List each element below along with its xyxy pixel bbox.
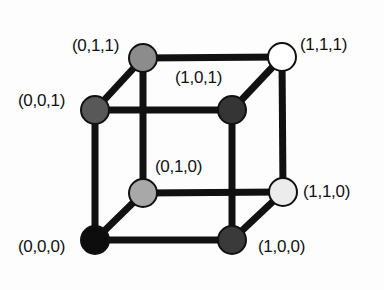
vertex-label-v011: (0,1,1) bbox=[72, 37, 119, 54]
cube-vertex-v001 bbox=[81, 96, 109, 124]
vertex-label-v000: (0,0,0) bbox=[18, 238, 65, 255]
vertex-label-v111: (1,1,1) bbox=[300, 36, 347, 53]
cube-vertex-v101 bbox=[218, 96, 246, 124]
vertex-label-v101: (1,0,1) bbox=[175, 69, 222, 86]
cube-vertex-v010 bbox=[129, 179, 157, 207]
vertex-label-v110: (1,1,0) bbox=[303, 183, 350, 200]
vertex-label-v100: (1,0,0) bbox=[258, 238, 305, 255]
cube-edge bbox=[143, 57, 282, 58]
vertex-label-v001: (0,0,1) bbox=[18, 92, 65, 109]
cube-vertex-v110 bbox=[269, 178, 297, 206]
color-cube-figure: (0,1,1)(1,1,1)(0,0,1)(1,0,1)(0,1,0)(1,1,… bbox=[0, 0, 384, 290]
cube-vertex-v111 bbox=[268, 43, 296, 71]
cube-vertex-v000 bbox=[81, 226, 109, 254]
cube-edge bbox=[282, 57, 283, 192]
cube-vertex-v011 bbox=[129, 44, 157, 72]
cube-vertex-v100 bbox=[218, 226, 246, 254]
vertex-label-v010: (0,1,0) bbox=[155, 158, 202, 175]
cube-edge bbox=[143, 192, 283, 193]
